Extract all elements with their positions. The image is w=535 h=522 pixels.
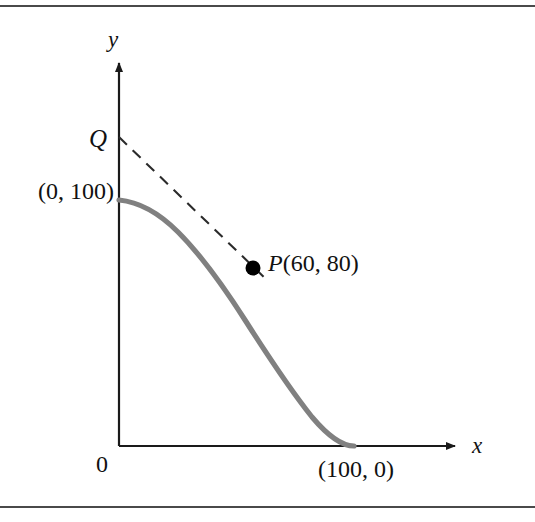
curve-sqrt-sum: [119, 200, 354, 446]
tangent-line-dashed: [119, 137, 268, 281]
point-q-label: Q: [89, 126, 107, 151]
point-p-coords: (60, 80): [283, 250, 359, 276]
x-axis-label: x: [472, 434, 482, 457]
y-intercept-label: (0, 100): [38, 179, 114, 203]
origin-label: 0: [96, 452, 108, 476]
y-axis-label: y: [108, 28, 118, 51]
x-intercept-label: (100, 0): [318, 457, 394, 481]
point-p-marker: [246, 261, 261, 276]
figure-container: y x Q 0 (0, 100) (100, 0) P(60, 80): [0, 0, 535, 522]
point-p-name: P: [268, 250, 283, 276]
point-p-label: P(60, 80): [268, 251, 359, 275]
